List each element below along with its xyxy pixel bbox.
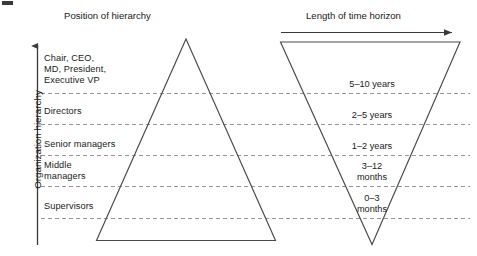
diagram-canvas: Position of hierarchy Length of time hor… (0, 0, 477, 256)
time-label-0-3-months: 0–3 months (320, 193, 424, 215)
header-length-of-time-horizon: Length of time horizon (306, 10, 401, 21)
time-label-2-5-years: 2–5 years (320, 110, 424, 121)
level-label-supervisors: Supervisors (44, 201, 94, 212)
level-label-executives: Chair, CEO, MD, President, Executive VP (44, 53, 106, 87)
y-axis-title: Organization hierarchy (32, 55, 43, 225)
header-position-of-hierarchy: Position of hierarchy (64, 10, 151, 21)
time-label-5-10-years: 5–10 years (320, 79, 424, 90)
time-label-1-2-years: 1–2 years (320, 141, 424, 152)
time-label-3-12-months: 3–12 months (320, 161, 424, 183)
level-label-senior-managers: Senior managers (44, 139, 115, 150)
level-label-middle-managers: Middle managers (44, 160, 86, 182)
hierarchy-pyramid (97, 39, 276, 241)
diagram-graphics (0, 0, 477, 256)
level-label-directors: Directors (44, 106, 82, 117)
